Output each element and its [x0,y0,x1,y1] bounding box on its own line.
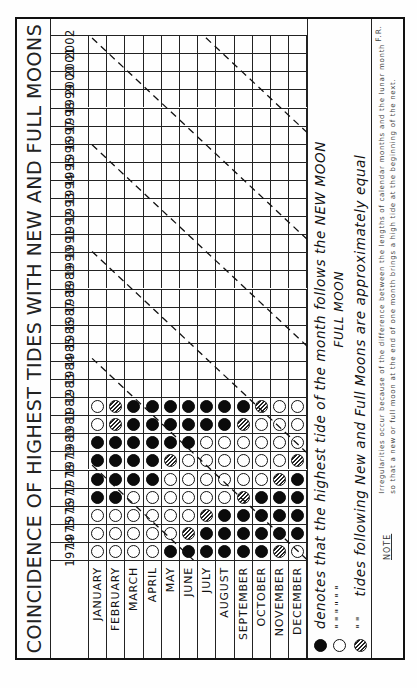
grid-cell [107,234,125,252]
grid-cell [89,343,107,361]
grid-cell [235,542,253,560]
grid-cell [162,270,180,288]
chart-frame: COINCIDENCE OF HIGHEST TIDES WITH NEW AN… [15,17,405,660]
grid-cell [180,325,198,343]
month-label: MARCH [125,560,143,658]
new-moon-dot-icon [127,400,140,413]
grid-cell [271,53,289,71]
grid-cell [271,252,289,270]
grid-cell [180,451,198,469]
grid-cell [235,252,253,270]
full-moon-dot-icon [291,545,304,558]
grid-cell [198,433,216,451]
grid-cell [216,126,234,144]
grid-cell [235,470,253,488]
grid-cell [162,361,180,379]
equal-tides-dot-icon [291,454,304,467]
grid-cell [180,361,198,379]
grid-cell [289,361,307,379]
new-moon-dot-icon [164,400,177,413]
grid-cell [253,89,271,107]
grid-cell [198,361,216,379]
grid-cell [89,307,107,325]
grid-cell [198,144,216,162]
legend-equal-text: tides following New and Full Moons are a… [352,155,368,597]
grid-cell [144,180,162,198]
full-moon-dot-icon [91,527,104,540]
grid-cell [216,415,234,433]
grid-cell [180,270,198,288]
grid-cell [144,524,162,542]
note-label: NOTE [383,534,392,560]
grid-cell [180,144,198,162]
equal-tides-dot-icon [273,545,286,558]
grid-cell [235,198,253,216]
grid-cell [198,71,216,89]
grid-cell [125,162,143,180]
legend-full-text: FULL MOON [332,271,346,348]
grid-cell [235,216,253,234]
new-moon-dot-icon [127,454,140,467]
grid-cell [89,53,107,71]
new-moon-dot-icon [127,436,140,449]
month-label: AUGUST [216,560,234,658]
grid-cell [162,89,180,107]
grid-cell [107,180,125,198]
note-body: Irregularities occur because of the diff… [377,44,399,494]
grid-cell [89,126,107,144]
grid-cell [253,252,271,270]
grid-cell [235,162,253,180]
new-moon-dot-icon [273,509,286,522]
grid-cell [216,524,234,542]
grid-cell [162,488,180,506]
grid-cell [289,144,307,162]
grid-cell [144,307,162,325]
full-moon-dot-icon [91,418,104,431]
grid-cell [271,198,289,216]
grid-cell [253,488,271,506]
grid-cell [235,53,253,71]
grid-cell [271,289,289,307]
full-moon-dot-icon [127,509,140,522]
new-moon-dot-icon [291,473,304,486]
grid-cell [162,234,180,252]
ditto-marks: " " " " " " [334,586,345,630]
grid-cell [235,343,253,361]
full-moon-dot-icon [218,454,231,467]
grid-cell [198,325,216,343]
grid-cell [125,289,143,307]
grid-cell [271,451,289,469]
grid-cell [235,506,253,524]
grid-cell [253,180,271,198]
grid-cell [289,343,307,361]
grid-cell [144,270,162,288]
grid-cell [162,506,180,524]
grid-cell [271,470,289,488]
month-label: JUNE [180,560,198,658]
grid-cell [162,289,180,307]
grid-cell [271,325,289,343]
grid-cell [144,162,162,180]
equal-tides-dot-icon [255,400,268,413]
full-moon-dot-icon [291,400,304,413]
full-moon-dot-icon [182,473,195,486]
new-moon-dot-icon [291,527,304,540]
grid-cell [198,198,216,216]
new-moon-dot-icon [237,400,250,413]
grid-cell [235,234,253,252]
new-moon-dot-icon [237,527,250,540]
grid-cell [144,71,162,89]
grid-cell [89,35,107,53]
grid-cell [235,397,253,415]
grid-cell [125,470,143,488]
grid-cell [198,524,216,542]
grid-cell [198,542,216,560]
grid-cell [89,289,107,307]
new-moon-dot-icon [218,418,231,431]
full-moon-dot-icon [164,491,177,504]
grid-cell [271,71,289,89]
grid-cell [216,180,234,198]
grid-cell [144,415,162,433]
full-moon-dot-icon [109,509,122,522]
grid-cell [180,415,198,433]
